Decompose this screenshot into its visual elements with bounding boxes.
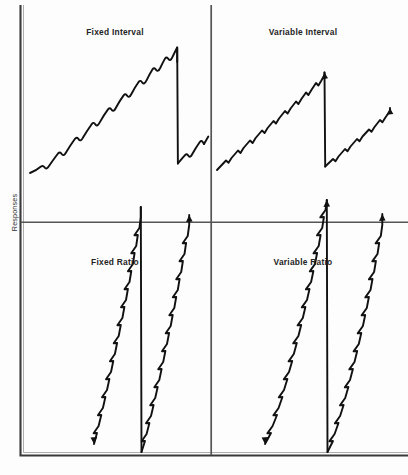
panel-title-variable-ratio: Variable Ratio (248, 257, 358, 267)
curve-fixed-interval (30, 48, 208, 174)
arrowhead-group-vr (262, 200, 386, 444)
panel-title-fixed-ratio: Fixed Ratio (60, 257, 170, 267)
cumulative-record-figure: Responses Fixed Interval Variable Interv… (0, 0, 408, 475)
arrowhead-group-vi (322, 73, 394, 115)
panel-title-variable-interval: Variable Interval (248, 27, 358, 37)
curve-variable-ratio (265, 200, 382, 452)
panel-title-fixed-interval: Fixed Interval (60, 27, 170, 37)
figure-svg (0, 0, 408, 475)
y-axis-label: Responses (10, 178, 19, 248)
outer-frame (21, 5, 408, 456)
quadrant-dividers (21, 5, 408, 455)
curve-variable-interval (217, 73, 390, 171)
curve-fixed-ratio (94, 207, 190, 452)
